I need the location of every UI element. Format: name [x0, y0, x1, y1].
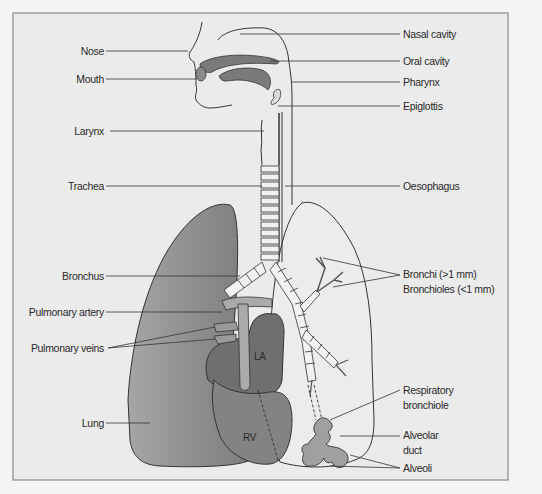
label-respiratory-bronchiole-line1: Respiratory [403, 383, 453, 397]
label-bronchus: Bronchus [44, 269, 104, 283]
label-alveoli: Alveoli [403, 461, 432, 475]
label-pharynx: Pharynx [403, 75, 439, 89]
lips [196, 67, 206, 81]
label-oesophagus: Oesophagus [403, 179, 460, 193]
label-nasal-cavity: Nasal cavity [403, 27, 456, 41]
label-pulmonary-veins: Pulmonary veins [14, 341, 104, 355]
label-larynx: Larynx [54, 124, 104, 138]
label-nose: Nose [60, 44, 104, 58]
label-left-atrium: LA [254, 350, 266, 364]
label-trachea: Trachea [50, 179, 104, 193]
label-oral-cavity: Oral cavity [403, 54, 449, 68]
label-bronchi: Bronchi (>1 mm) [403, 267, 476, 281]
label-alveolar-duct-line1: Alveolar [403, 428, 439, 442]
label-lung: Lung [54, 416, 104, 430]
label-respiratory-bronchiole-line2: bronchiole [403, 398, 448, 412]
label-pulmonary-artery: Pulmonary artery [14, 305, 104, 319]
label-right-ventricle: RV [243, 431, 256, 445]
label-bronchioles: Bronchioles (<1 mm) [403, 282, 494, 296]
label-epiglottis: Epiglottis [403, 99, 443, 113]
label-alveolar-duct-line2: duct [403, 443, 422, 457]
label-mouth: Mouth [54, 72, 104, 86]
